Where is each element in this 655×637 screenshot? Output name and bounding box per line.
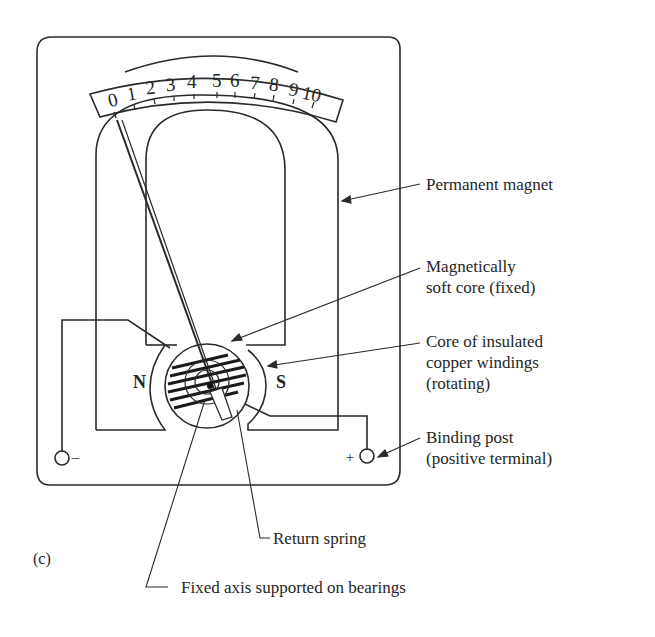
svg-text:3: 3: [165, 74, 176, 96]
svg-text:10: 10: [300, 82, 323, 107]
svg-text:7: 7: [249, 72, 260, 94]
callout-fixed-axis: Fixed axis supported on bearings: [181, 577, 406, 598]
positive-sign: +: [346, 450, 354, 466]
callout-line: copper windings: [426, 352, 543, 373]
positive-terminal-binding-post: [360, 449, 374, 463]
callout-line: (rotating): [426, 373, 543, 394]
north-pole-label: N: [133, 372, 146, 393]
callout-line: Return spring: [273, 528, 366, 549]
negative-sign: –: [72, 450, 79, 466]
svg-text:9: 9: [287, 78, 300, 100]
callout-line: Fixed axis supported on bearings: [181, 577, 406, 598]
south-pole-label: S: [276, 372, 286, 393]
callout-line: (positive terminal): [426, 448, 552, 469]
callout-line: Magnetically: [426, 256, 536, 277]
permanent-magnet-inner: [146, 110, 285, 345]
negative-terminal: [55, 451, 69, 465]
svg-text:8: 8: [268, 73, 280, 95]
meter-case: [37, 37, 400, 485]
callout-soft-core: Magnetically soft core (fixed): [426, 256, 536, 298]
svg-text:2: 2: [144, 77, 156, 99]
callout-permanent-magnet: Permanent magnet: [426, 174, 553, 195]
figure-label: (c): [33, 550, 51, 568]
callout-line: soft core (fixed): [426, 277, 536, 298]
svg-text:5: 5: [212, 70, 222, 91]
callout-windings: Core of insulated copper windings (rotat…: [426, 331, 543, 394]
callout-line: Permanent magnet: [426, 174, 553, 195]
svg-text:0: 0: [106, 88, 120, 111]
svg-text:6: 6: [230, 70, 240, 91]
svg-text:4: 4: [187, 71, 197, 92]
callout-line: Binding post: [426, 427, 552, 448]
callout-return-spring: Return spring: [273, 528, 366, 549]
svg-text:1: 1: [125, 82, 138, 104]
callout-line: Core of insulated: [426, 331, 543, 352]
callout-binding-post: Binding post (positive terminal): [426, 427, 552, 469]
